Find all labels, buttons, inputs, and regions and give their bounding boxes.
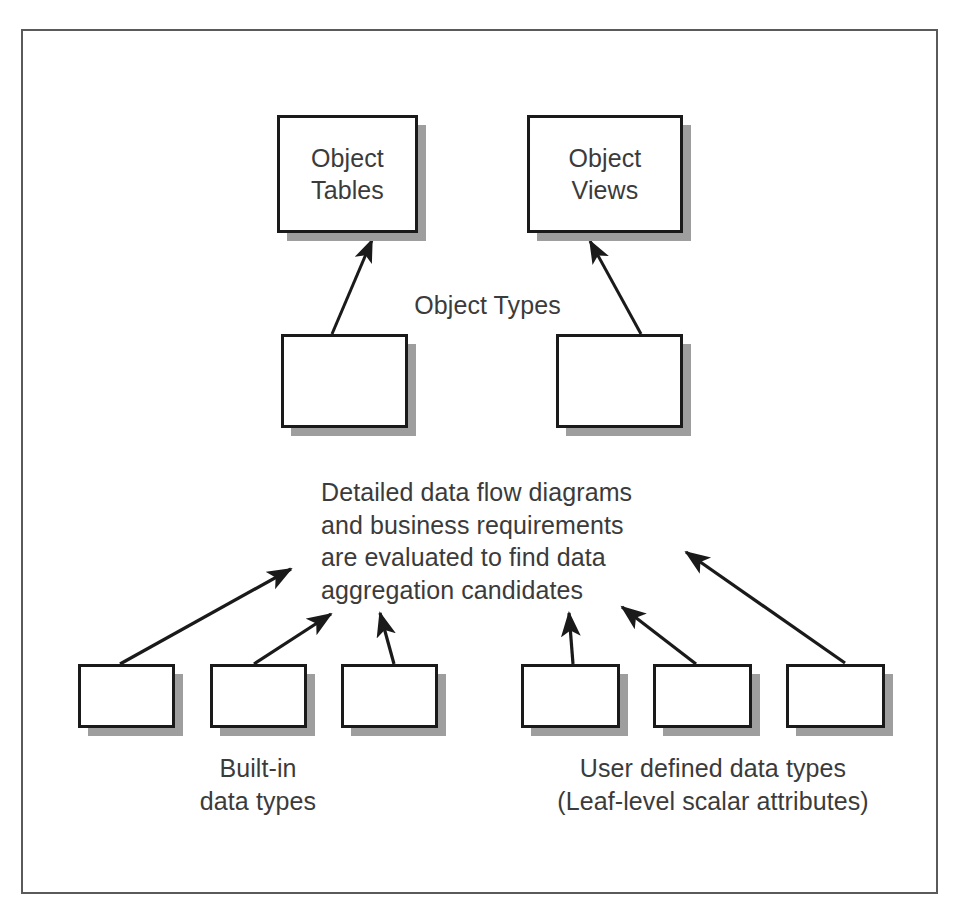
node-object-type-right[interactable]: [556, 334, 683, 428]
connector-objecttype-right-to-object-views: [590, 241, 641, 334]
node-object-tables-label: Object Tables: [311, 142, 384, 206]
node-userdef-box-2[interactable]: [653, 664, 752, 728]
connector-builtin-1-to-note: [120, 569, 291, 664]
node-object-views-label: Object Views: [569, 142, 642, 206]
connector-userdef-3-to-note: [686, 552, 845, 663]
node-object-views[interactable]: Object Views: [527, 115, 683, 233]
connector-builtin-2-to-note: [254, 614, 331, 664]
label-aggregation-note: Detailed data flow diagrams and business…: [321, 476, 671, 606]
connector-userdef-1-to-note: [569, 613, 573, 664]
node-userdef-box-1[interactable]: [521, 664, 620, 728]
connector-objecttype-left-to-object-tables: [332, 240, 372, 334]
node-builtin-box-2[interactable]: [210, 664, 307, 728]
node-builtin-box-3[interactable]: [341, 664, 438, 728]
label-builtin-caption: Built-in data types: [158, 752, 358, 817]
node-userdef-box-3[interactable]: [786, 664, 885, 728]
label-object-types: Object Types: [400, 289, 575, 322]
diagram-canvas: Object Tables Object Views Object Types …: [0, 0, 966, 923]
connector-builtin-3-to-note: [380, 613, 394, 664]
node-object-type-left[interactable]: [281, 334, 408, 428]
connector-userdef-2-to-note: [622, 607, 696, 664]
label-userdefined-caption: User defined data types (Leaf-level scal…: [518, 752, 908, 817]
node-builtin-box-1[interactable]: [78, 664, 175, 728]
node-object-tables[interactable]: Object Tables: [277, 115, 418, 233]
